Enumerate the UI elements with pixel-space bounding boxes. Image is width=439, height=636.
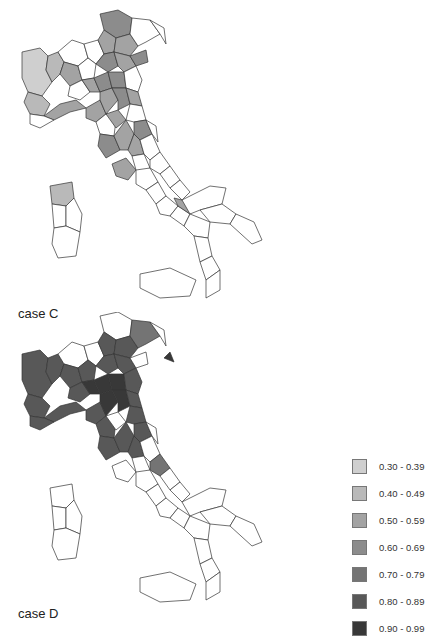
legend-item: 0.40 - 0.49 (352, 485, 424, 501)
legend-item: 0.90 - 0.99 (352, 620, 424, 636)
legend-item: 0.60 - 0.69 (352, 539, 424, 555)
legend-label: 0.80 - 0.89 (379, 596, 424, 607)
legend-label: 0.60 - 0.69 (379, 542, 424, 553)
legend-swatch (352, 486, 367, 501)
legend-label: 0.40 - 0.49 (379, 488, 424, 499)
legend-swatch (352, 621, 367, 636)
legend-item: 0.50 - 0.59 (352, 512, 424, 528)
map-case-c (0, 0, 300, 300)
legend-label: 0.70 - 0.79 (379, 569, 424, 580)
legend-item: 0.70 - 0.79 (352, 566, 424, 582)
italy-outline-case-c (22, 10, 262, 298)
map-case-d (0, 312, 300, 624)
legend-swatch (352, 540, 367, 555)
legend-swatch (352, 459, 367, 474)
legend-label: 0.50 - 0.59 (379, 515, 424, 526)
italy-outline-case-d (22, 312, 262, 602)
legend-item: 0.30 - 0.39 (352, 458, 424, 474)
legend-label: 0.30 - 0.39 (379, 461, 424, 472)
legend-swatch (352, 567, 367, 582)
legend-item: 0.80 - 0.89 (352, 593, 424, 609)
case-d-label: case D (18, 606, 58, 621)
legend-swatch (352, 594, 367, 609)
legend-label: 0.90 - 0.99 (379, 623, 424, 634)
legend-swatch (352, 513, 367, 528)
